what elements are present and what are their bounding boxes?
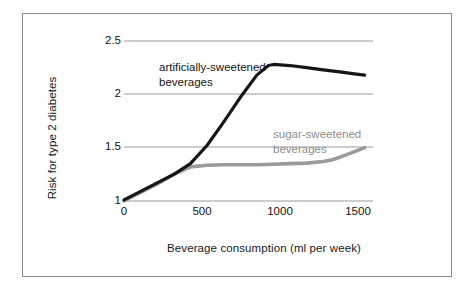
figure-canvas: 2.5 2 1.5 1 0 500 1000 1500 Risk for typ… [0,0,476,292]
y-tick-label-1.5: 1.5 [91,140,121,152]
x-tick-label-0: 0 [102,205,146,217]
annotation-artificially-sweetened: artificially-sweetened beverages [159,60,266,89]
annotation-line-2: beverages [273,142,361,157]
y-tick-label-2: 2 [91,87,121,99]
x-tick-label-500: 500 [180,205,224,217]
plot-area [23,14,451,276]
annotation-line-1: artificially-sweetened [159,60,266,75]
chart-frame: 2.5 2 1.5 1 0 500 1000 1500 Risk for typ… [22,13,452,277]
x-axis-title: Beverage consumption (ml per week) [119,242,409,254]
x-tick-label-1500: 1500 [336,205,380,217]
annotation-line-2: beverages [159,75,266,90]
x-tick-label-1000: 1000 [258,205,302,217]
y-tick-label-2.5: 2.5 [91,34,121,46]
annotation-sugar-sweetened: sugar-sweetened beverages [273,127,361,156]
y-axis-title: Risk for type 2 diabetes [46,63,58,213]
annotation-line-1: sugar-sweetened [273,127,361,142]
